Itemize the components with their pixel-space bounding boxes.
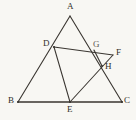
vertex-label-d: D (43, 39, 50, 48)
vertex-dot-d (53, 46, 55, 48)
figure-canvas (0, 0, 136, 120)
vertex-label-c: C (124, 96, 130, 105)
vertex-label-a: A (67, 2, 74, 11)
vertex-dot-e (69, 101, 71, 103)
vertex-label-g: G (93, 40, 100, 49)
vertex-label-h: H (105, 62, 112, 71)
vertex-dot-h (101, 65, 103, 67)
geometry-figure: A B C D E F G H (0, 0, 136, 120)
vertex-dot-b (17, 101, 19, 103)
vertex-dot-c (121, 101, 123, 103)
vertex-label-e: E (67, 105, 73, 114)
vertex-label-f: F (116, 48, 121, 57)
vertex-label-b: B (8, 96, 14, 105)
